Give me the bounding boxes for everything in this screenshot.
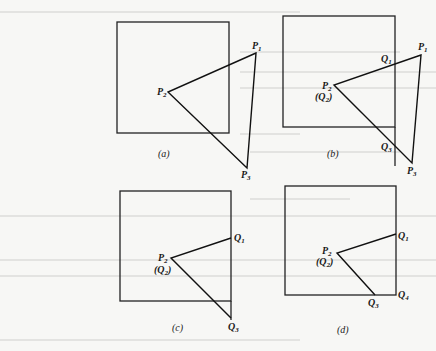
vertex-label: P3 — [241, 169, 251, 182]
vertex-label: (Q2) — [154, 264, 171, 277]
vertex-label: Q3 — [368, 297, 379, 310]
panel-a: P1P2P3(a) — [117, 22, 262, 182]
panel-caption: (c) — [172, 322, 184, 334]
input-polygon — [334, 55, 421, 163]
clip-window — [283, 16, 395, 127]
clipped-polyline — [171, 238, 231, 318]
panel-c: Q1P2(Q2)Q3(c) — [120, 191, 245, 334]
vertex-label: Q3 — [228, 321, 239, 334]
vertex-label: Q1 — [234, 232, 245, 245]
clip-window — [285, 186, 396, 295]
vertex-label: Q1 — [381, 53, 392, 66]
panel-caption: (b) — [327, 148, 339, 160]
panel-caption: (d) — [337, 324, 349, 336]
vertex-label: Q4 — [398, 289, 409, 302]
vertex-label: (Q2) — [315, 91, 332, 104]
vertex-label: P2 — [157, 86, 167, 99]
clipping-diagram: P1P2P3(a)P1Q1P2(Q2)Q3P3(b)Q1P2(Q2)Q3(c)Q… — [0, 0, 436, 351]
vertex-label: P3 — [407, 165, 417, 178]
clip-window — [117, 22, 229, 133]
panel-caption: (a) — [158, 148, 170, 160]
clip-window — [120, 191, 231, 301]
input-polygon — [168, 53, 256, 168]
vertex-label: (Q2) — [316, 256, 333, 269]
panel-d: Q1P2(Q2)Q3Q4(d) — [285, 186, 409, 336]
vertex-label: Q3 — [381, 141, 392, 154]
vertex-label: Q1 — [398, 230, 409, 243]
clipped-polyline — [337, 234, 396, 295]
panel-b: P1Q1P2(Q2)Q3P3(b) — [283, 16, 428, 178]
vertex-label: P1 — [418, 41, 428, 54]
vertex-label: P1 — [252, 40, 262, 53]
